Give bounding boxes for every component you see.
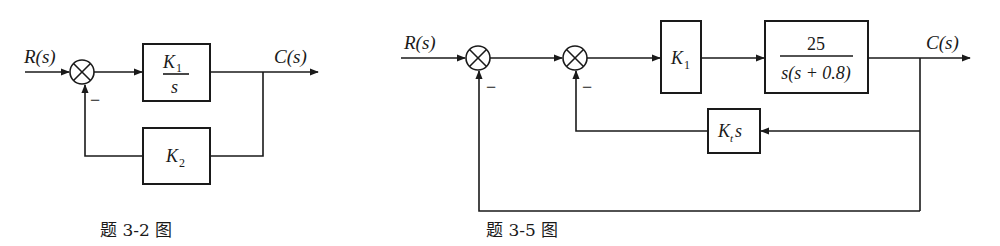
minus-sign-inner: − [582, 77, 592, 97]
forward-numerator: K [162, 52, 176, 72]
input-label: R(s) [23, 46, 56, 68]
summing-junction-inner [563, 46, 587, 70]
rate-feedback-suffix: s [735, 121, 742, 141]
block-diagrams-canvas: R(s) − K 1 s C(s) K 2 题 3-2 图 [0, 0, 1000, 246]
feedback-label: K [165, 146, 179, 166]
forward-denominator: s [171, 77, 178, 97]
diagram-3-2: R(s) − K 1 s C(s) K 2 题 3-2 图 [23, 44, 318, 240]
summing-junction-outer [466, 46, 490, 70]
diagram-3-5: R(s) − − K 1 25 s(s + 0 [401, 21, 970, 240]
minus-sign: − [90, 90, 100, 110]
gain-label-subscript: 1 [684, 58, 690, 72]
rate-feedback-block: K t s [708, 109, 760, 153]
forward-numerator-subscript: 1 [176, 61, 182, 75]
caption: 题 3-2 图 [100, 220, 172, 240]
feedback-branch-line [210, 72, 263, 156]
output-label: C(s) [274, 46, 307, 68]
output-label: C(s) [926, 32, 959, 54]
plant-numerator: 25 [807, 34, 825, 54]
minus-sign-outer: − [486, 77, 496, 97]
forward-block: K 1 s [143, 44, 210, 101]
plant-denominator: s(s + 0.8) [781, 63, 851, 84]
rate-feedback-label: K [717, 121, 731, 141]
feedback-block: K 2 [143, 128, 210, 184]
gain-label: K [670, 48, 684, 68]
input-label: R(s) [403, 32, 436, 54]
gain-block: K 1 [661, 21, 701, 93]
plant-block: 25 s(s + 0.8) [765, 21, 868, 93]
caption: 题 3-5 图 [486, 220, 558, 240]
feedback-label-subscript: 2 [179, 156, 185, 170]
summing-junction [70, 60, 94, 84]
